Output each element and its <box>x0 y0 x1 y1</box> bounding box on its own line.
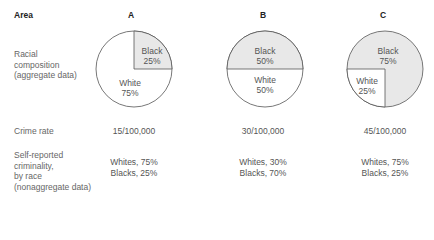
pie-c-black-label: Black <box>378 46 400 56</box>
crime-rate-b: 30/100,000 <box>233 126 293 137</box>
blacks-pct: Blacks, 25% <box>104 168 164 179</box>
pie-a: Black 25% White 75% <box>96 31 172 107</box>
pie-b-white-label: White <box>254 75 276 85</box>
blacks-pct: Blacks, 70% <box>233 168 293 179</box>
pie-c-white-pct: 25% <box>358 86 375 96</box>
crime-rate-c: 45/100,000 <box>355 126 415 137</box>
pie-b-black-label: Black <box>255 46 277 56</box>
crime-rate-a: 15/100,000 <box>104 126 164 137</box>
pie-a-black-pct: 25% <box>143 56 160 66</box>
self-reported-a: Whites, 75% Blacks, 25% <box>104 157 164 178</box>
self-reported-c: Whites, 75% Blacks, 25% <box>355 157 415 178</box>
whites-pct: Whites, 75% <box>355 157 415 168</box>
pie-b-black-pct: 50% <box>256 56 273 66</box>
pie-b: Black 50% White 50% <box>227 31 303 107</box>
self-reported-b: Whites, 30% Blacks, 70% <box>233 157 293 178</box>
whites-pct: Whites, 30% <box>233 157 293 168</box>
pie-c-white-label: White <box>356 76 378 86</box>
label-line: by race <box>14 171 91 182</box>
pie-a-black-label: Black <box>142 46 164 56</box>
pie-c: Black 75% White 25% <box>347 31 423 107</box>
label-line: (nonaggregate data) <box>14 182 91 193</box>
self-reported-label: Self-reported criminality, by race (nona… <box>14 150 91 192</box>
pie-a-white-pct: 75% <box>121 88 138 98</box>
crime-rate-label: Crime rate <box>14 126 54 137</box>
whites-pct: Whites, 75% <box>104 157 164 168</box>
blacks-pct: Blacks, 25% <box>355 168 415 179</box>
pie-c-black-pct: 75% <box>379 56 396 66</box>
pie-a-white-label: White <box>119 78 141 88</box>
label-line: criminality, <box>14 161 91 172</box>
label-line: Self-reported <box>14 150 91 161</box>
pie-b-white-pct: 50% <box>256 85 273 95</box>
